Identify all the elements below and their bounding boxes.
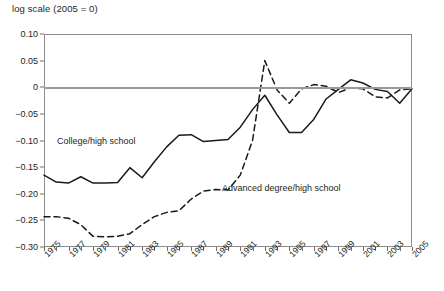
y-axis-tick-mark <box>40 167 44 168</box>
series-label-college: College/high school <box>57 136 136 146</box>
y-axis-tick-label: 0.05 <box>0 56 38 66</box>
y-axis-tick-mark <box>40 60 44 61</box>
x-axis-tick-label: 2005 <box>410 238 431 259</box>
y-axis-tick-label: −0.20 <box>0 189 38 199</box>
y-axis-tick-label: 0.10 <box>0 29 38 39</box>
y-axis-tick-mark <box>40 220 44 221</box>
y-axis-tick-label: −0.30 <box>0 242 38 252</box>
y-axis-tick-label: −0.10 <box>0 136 38 146</box>
series-label-advanced: Advanced degree/high school <box>222 183 341 193</box>
y-axis-tick-mark <box>40 140 44 141</box>
y-axis-tick-label: −0.25 <box>0 215 38 225</box>
y-axis-tick-mark <box>40 34 44 35</box>
chart-title: log scale (2005 = 0) <box>12 3 98 14</box>
y-axis-tick-mark <box>40 193 44 194</box>
y-axis-tick-label: −0.05 <box>0 109 38 119</box>
y-axis-tick-mark <box>40 113 44 114</box>
chart-container: log scale (2005 = 0) 0.100.050−0.05−0.10… <box>0 0 444 291</box>
y-axis-tick-label: 0 <box>0 82 38 92</box>
y-axis-tick-label: −0.15 <box>0 162 38 172</box>
zero-reference-line <box>44 87 412 88</box>
